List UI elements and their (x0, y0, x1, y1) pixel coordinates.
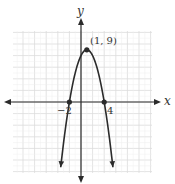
parabola-graph (0, 0, 175, 184)
x-intercept-point (102, 99, 107, 104)
x-intercept-left-label: −2 (57, 106, 72, 116)
x-intercept-point (67, 99, 72, 104)
x-intercept-right-label: 4 (107, 106, 113, 116)
axes (4, 18, 161, 183)
y-axis-label: y (77, 5, 84, 17)
vertex-point (84, 47, 89, 52)
vertex-label: (1, 9) (90, 36, 117, 46)
x-axis-label: x (164, 95, 171, 107)
